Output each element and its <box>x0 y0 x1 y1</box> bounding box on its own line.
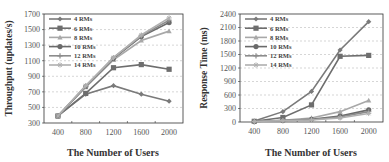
diamond-marker-icon <box>167 99 172 104</box>
circle-marker-icon <box>57 44 62 49</box>
plus-marker-icon <box>57 53 62 58</box>
legend-item: 12 RMs <box>245 52 292 59</box>
y-tick-label: 2400 <box>220 10 236 19</box>
legend-label: 6 RMs <box>270 25 289 32</box>
star-marker-icon <box>253 62 258 67</box>
figure: 3005007009001100130015001700400800120016… <box>0 0 389 162</box>
triangle-marker-icon <box>366 98 371 103</box>
legend-label: 4 RMs <box>270 15 289 22</box>
x-tick-label: 800 <box>80 128 92 137</box>
legend-label: 8 RMs <box>270 34 289 41</box>
legend-label: 12 RMs <box>270 52 292 59</box>
x-axis-label: The Number of Users <box>265 147 357 158</box>
star-marker-icon <box>309 117 314 122</box>
legend-label: 14 RMs <box>74 61 96 68</box>
y-tick-label: 600 <box>224 91 236 100</box>
star-marker-icon <box>280 118 285 123</box>
square-marker-icon <box>139 62 144 67</box>
circle-marker-icon <box>253 44 258 49</box>
legend-label: 10 RMs <box>74 43 96 50</box>
x-tick-label: 1200 <box>106 128 122 137</box>
y-tick-label: 1500 <box>24 25 40 34</box>
square-marker-icon <box>366 53 371 58</box>
y-tick-label: 300 <box>224 104 236 113</box>
legend-item: 12 RMs <box>49 52 96 59</box>
legend-item: 10 RMs <box>49 43 96 50</box>
diamond-marker-icon <box>57 16 62 21</box>
gridlines <box>240 28 383 109</box>
square-marker-icon <box>83 91 88 96</box>
y-tick-label: 900 <box>224 77 236 86</box>
y-tick-label: 300 <box>28 119 40 128</box>
diamond-marker-icon <box>111 83 116 88</box>
legend-label: 14 RMs <box>270 61 292 68</box>
legend-item: 8 RMs <box>49 34 93 41</box>
triangle-marker-icon <box>167 29 172 34</box>
legend-item: 10 RMs <box>245 43 292 50</box>
legend-item: 14 RMs <box>49 61 96 68</box>
y-tick-label: 0 <box>232 118 236 127</box>
star-marker-icon <box>57 62 62 67</box>
legend-item: 4 RMs <box>49 15 93 22</box>
legend-item: 4 RMs <box>245 15 289 22</box>
legend-item: 14 RMs <box>245 61 292 68</box>
legend-label: 6 RMs <box>74 25 93 32</box>
star-marker-icon <box>167 15 172 20</box>
legend-label: 4 RMs <box>74 15 93 22</box>
y-axis-label: Throughput (updates/s) <box>4 20 15 116</box>
y-tick-label: 1200 <box>220 64 236 73</box>
y-tick-label: 1800 <box>220 37 236 46</box>
y-tick-label: 2100 <box>220 23 236 32</box>
star-marker-icon <box>338 115 343 120</box>
square-marker-icon <box>309 102 314 107</box>
x-tick-label: 2000 <box>361 127 377 136</box>
square-marker-icon <box>57 26 62 31</box>
x-tick-label: 1600 <box>133 128 149 137</box>
legend: 4 RMs6 RMs8 RMs10 RMs12 RMs14 RMs <box>49 15 96 68</box>
diamond-marker-icon <box>253 16 258 21</box>
y-tick-label: 1300 <box>24 41 40 50</box>
diamond-marker-icon <box>139 92 144 97</box>
y-tick-label: 900 <box>28 72 40 81</box>
y-axis-label: Response Time (ms) <box>199 27 210 108</box>
square-marker-icon <box>338 54 343 59</box>
y-tick-label: 1700 <box>24 10 40 19</box>
x-tick-label: 800 <box>277 127 289 136</box>
star-marker-icon <box>366 111 371 116</box>
x-tick-label: 1200 <box>304 127 320 136</box>
plus-marker-icon <box>253 53 258 58</box>
x-tick-label: 400 <box>52 128 64 137</box>
square-marker-icon <box>253 26 258 31</box>
legend-item: 8 RMs <box>245 34 289 41</box>
throughput-chart: 3005007009001100130015001700400800120016… <box>4 10 183 158</box>
legend-label: 10 RMs <box>270 43 292 50</box>
x-tick-label: 1600 <box>332 127 348 136</box>
y-tick-label: 1500 <box>220 50 236 59</box>
legend-item: 6 RMs <box>49 25 93 32</box>
x-tick-label: 2000 <box>161 128 177 137</box>
square-marker-icon <box>111 65 116 70</box>
response-time-chart: 0300600900120015001800210024004008001200… <box>199 10 383 158</box>
legend-label: 8 RMs <box>74 34 93 41</box>
legend: 4 RMs6 RMs8 RMs10 RMs12 RMs14 RMs <box>245 15 292 68</box>
square-marker-icon <box>167 67 172 72</box>
legend-item: 6 RMs <box>245 25 289 32</box>
series-6-rms <box>55 62 171 119</box>
y-tick-label: 500 <box>28 103 40 112</box>
legend-label: 12 RMs <box>74 52 96 59</box>
y-tick-label: 700 <box>28 88 40 97</box>
x-tick-label: 400 <box>248 127 260 136</box>
y-tick-label: 1100 <box>24 57 40 66</box>
x-axis-label: The Number of Users <box>67 147 159 158</box>
